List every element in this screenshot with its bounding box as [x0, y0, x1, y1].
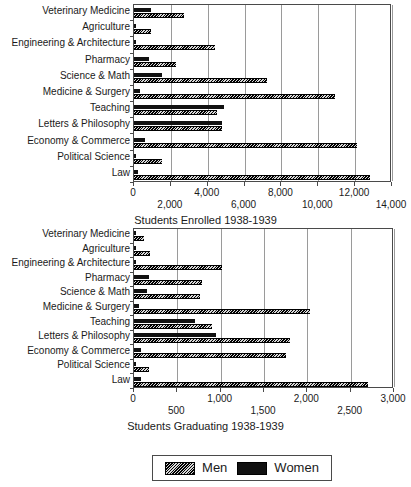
plot-frame — [133, 228, 393, 388]
bar-rows — [134, 229, 392, 387]
bar-women — [134, 319, 195, 323]
y-axis-tick — [130, 243, 134, 244]
x-axis-tick-label: 2,000 — [294, 394, 319, 404]
bar-men — [134, 309, 310, 314]
x-axis-tick-label: 2,500 — [337, 406, 362, 416]
y-axis-tick-label: Teaching — [0, 317, 130, 327]
bar-men — [134, 338, 290, 343]
x-axis-tick — [220, 388, 221, 392]
bar-row — [134, 273, 392, 288]
bar-men — [134, 353, 286, 358]
x-axis-tick — [306, 388, 307, 392]
y-axis-tick-label: Veterinary Medicine — [0, 229, 130, 239]
bar-row — [134, 302, 392, 317]
x-axis-tick — [263, 388, 264, 392]
x-axis: 05001,0001,5002,0002,5003,000 — [133, 388, 393, 422]
bar-row — [134, 316, 392, 331]
y-axis-tick-label: Agriculture — [0, 244, 130, 254]
y-axis-labels: Veterinary MedicineAgricultureEngineerin… — [0, 228, 130, 388]
y-axis-tick — [130, 272, 134, 273]
gridline — [394, 229, 395, 387]
bar-women — [134, 246, 136, 250]
y-axis-tick-label: Engineering & Architecture — [0, 258, 130, 268]
bar-row — [134, 360, 392, 375]
chart-legend: Men Women — [152, 455, 332, 481]
y-axis-tick — [130, 330, 134, 331]
bar-men — [134, 382, 368, 387]
bar-women — [134, 348, 141, 352]
y-axis-tick — [130, 344, 134, 345]
y-axis-tick — [130, 286, 134, 287]
legend-swatch-men-icon — [165, 462, 195, 475]
x-axis-title: Students Graduating 1938-1939 — [0, 420, 411, 432]
bar-men — [134, 324, 212, 329]
bar-men — [134, 236, 144, 241]
x-axis-tick-label: 3,000 — [380, 394, 405, 404]
bar-row — [134, 331, 392, 346]
legend-label-men: Men — [202, 461, 227, 475]
legend-item-men: Men — [165, 461, 227, 475]
bar-men — [134, 280, 202, 285]
bar-women — [134, 333, 216, 337]
bar-women — [134, 260, 136, 264]
bar-women — [134, 275, 149, 279]
y-axis-tick-label: Economy & Commerce — [0, 346, 130, 356]
bar-men — [134, 265, 222, 270]
bar-men — [134, 251, 150, 256]
bar-men — [134, 367, 149, 372]
bar-row — [134, 244, 392, 259]
x-axis-tick — [133, 388, 134, 392]
x-axis-tick-label: 1,000 — [207, 394, 232, 404]
bar-men — [134, 294, 200, 299]
y-axis-tick — [130, 257, 134, 258]
x-axis-tick — [350, 388, 351, 392]
y-axis-tick — [130, 301, 134, 302]
y-axis-tick-label: Political Science — [0, 360, 130, 370]
bar-women — [134, 289, 147, 293]
bar-women — [134, 304, 139, 308]
bar-women — [134, 377, 141, 381]
bar-row — [134, 229, 392, 244]
legend-item-women: Women — [237, 461, 319, 475]
bar-row — [134, 287, 392, 302]
x-axis-tick — [176, 388, 177, 392]
y-axis-tick-label: Science & Math — [0, 287, 130, 297]
legend-swatch-women-icon — [237, 462, 267, 475]
y-axis-tick-label: Medicine & Surgery — [0, 302, 130, 312]
bar-row — [134, 374, 392, 389]
y-axis-tick-label: Pharmacy — [0, 273, 130, 283]
bar-row — [134, 345, 392, 360]
bar-women — [134, 231, 136, 235]
y-axis-tick — [130, 315, 134, 316]
y-axis-tick-label: Letters & Philosophy — [0, 331, 130, 341]
x-axis-tick — [393, 388, 394, 392]
x-axis-tick-label: 0 — [130, 394, 136, 404]
figure-two-bar-charts: Veterinary MedicineAgricultureEngineerin… — [0, 0, 411, 487]
bar-women — [134, 362, 136, 366]
y-axis-tick — [130, 373, 134, 374]
chart-students-graduating: Veterinary MedicineAgricultureEngineerin… — [0, 0, 411, 487]
x-axis-tick-label: 500 — [168, 406, 185, 416]
x-axis-tick-label: 1,500 — [250, 406, 275, 416]
bar-row — [134, 258, 392, 273]
y-axis-tick — [130, 359, 134, 360]
y-axis-tick-label: Law — [0, 375, 130, 385]
legend-label-women: Women — [274, 461, 319, 475]
